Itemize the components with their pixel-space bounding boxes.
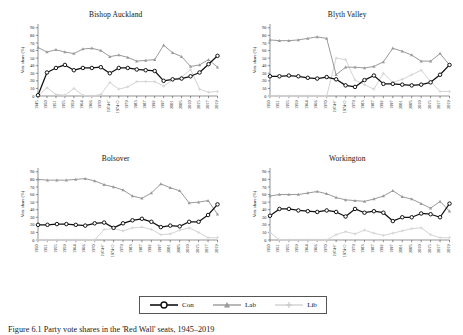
svg-text:40: 40 [262,207,266,212]
data-point-lab [438,52,441,55]
x-tick-label: 1974-O [341,101,346,114]
x-tick-label: 1983 [360,101,365,109]
svg-text:20: 20 [30,78,34,83]
x-tick-label: 2001 [166,245,171,253]
svg-text:40: 40 [262,63,266,68]
data-point-lib [400,229,403,232]
x-tick-label: 1974-O [341,245,346,258]
data-point-con [419,212,423,216]
data-point-con [162,79,166,83]
data-point-con [178,225,182,229]
data-point-con [447,63,451,67]
x-tick-label: 1974-O [110,245,115,258]
data-point-con [343,84,347,88]
svg-text:90: 90 [262,169,266,174]
legend-marker-lab-icon [212,300,242,310]
x-tick-label: 1979 [351,101,356,109]
panel-blyth-valley: Blyth Valley 0102030405060708090Vote sha… [232,4,463,148]
data-point-con [400,216,404,220]
legend-item-lib: Lib [274,300,317,310]
data-point-lab [36,46,39,49]
x-tick-label: 2001 [398,101,403,109]
x-tick-label: 1997 [157,245,162,253]
svg-text:80: 80 [262,177,266,182]
x-tick-label: 2010 [417,101,422,109]
x-tick-label: 1992 [379,101,384,109]
data-point-lib [325,95,328,98]
x-tick-label: 1997 [388,245,393,253]
data-point-con [362,211,366,215]
x-tick-label: 2005 [176,245,181,253]
svg-text:0: 0 [32,94,34,99]
legend-label-lab: Lab [245,301,256,309]
svg-text:20: 20 [262,222,266,227]
x-tick-label: 1979 [124,101,129,109]
series-line-lab [270,37,450,75]
data-point-lib [296,95,299,98]
legend-label-con: Con [182,301,194,309]
data-point-lab [391,47,394,50]
x-tick-label: 1970 [91,245,96,253]
y-axis-label: Vote share (%) [20,190,25,217]
data-point-lib [198,88,201,91]
data-point-con [45,71,49,75]
svg-text:70: 70 [30,185,34,190]
svg-text:90: 90 [30,169,34,174]
x-tick-label: 1983 [133,101,138,109]
svg-text:10: 10 [30,230,34,235]
data-point-con [334,210,338,214]
svg-text:50: 50 [262,56,266,61]
svg-text:60: 60 [30,48,34,53]
data-point-con [409,216,413,220]
svg-text:60: 60 [262,192,266,197]
x-tick-label: 2005 [178,101,183,109]
legend-marker-lib-icon [274,300,304,310]
data-point-con [324,209,328,213]
svg-text:70: 70 [262,185,266,190]
data-point-lib [306,95,309,98]
x-tick-label: 1974-O [115,101,120,114]
x-tick-label: 1992 [147,245,152,253]
plot-area: 0102030405060708090Vote share (%)1945195… [0,4,232,148]
data-point-con [391,219,395,223]
panel-bolsover: Bolsover 0102030405060708090Vote share (… [0,148,232,292]
data-point-con [63,63,67,67]
series-line-lib [38,227,218,240]
x-tick-label: 1966 [81,245,86,253]
plot-area: 0102030405060708090Vote share (%)1950195… [232,4,463,148]
data-point-lib [216,90,219,93]
x-tick-label: 1987 [369,245,374,253]
x-tick-label: 2017 [204,245,209,253]
x-tick-label: 1997 [388,101,393,109]
data-point-con [400,83,404,87]
data-point-lib [448,236,451,239]
data-point-con [74,223,78,227]
x-tick-label: 2005 [407,101,412,109]
data-point-lib [334,57,337,60]
series-line-lib [38,69,218,96]
data-point-lib [169,232,172,235]
svg-text:60: 60 [30,192,34,197]
svg-text:40: 40 [30,207,34,212]
x-tick-label: 1951 [43,245,48,253]
data-point-con [54,66,58,70]
data-point-con [353,207,357,211]
x-tick-label: 2001 [398,245,403,253]
x-tick-label: 1974-F [100,244,105,257]
data-point-lib [178,229,181,232]
panel-bishop-auckland: Bishop Auckland 0102030405060708090Vote … [0,4,232,148]
legend-item-con: Con [149,300,194,310]
x-tick-label: 2017 [436,101,441,109]
data-point-con [296,209,300,213]
data-point-con [381,211,385,215]
data-point-con [180,77,184,81]
data-point-lib [296,239,299,242]
data-point-con [447,202,451,206]
x-tick-label: 1983 [128,245,133,253]
svg-text:50: 50 [30,200,34,205]
x-tick-label: 1966 [313,245,318,253]
data-point-con [90,66,94,70]
x-tick-label: 2015 [426,245,431,253]
data-point-lib [438,236,441,239]
x-tick-label: 1979 [119,245,124,253]
